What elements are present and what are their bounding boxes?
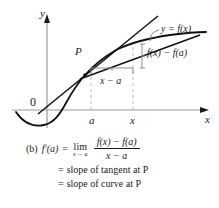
x-axis-label: x	[205, 114, 210, 125]
point-p-marker	[83, 73, 87, 77]
caption-part-label: (b)	[26, 143, 38, 154]
y-axis	[44, 14, 50, 128]
difference-quotient: f(x) − f(a) x − a	[94, 136, 140, 161]
curve-callout-leader	[150, 30, 159, 41]
caption-line-tangent: = slope of tangent at P	[0, 164, 219, 175]
run-label: x − a	[100, 76, 121, 86]
curve-equation-label: y = f(x)	[161, 24, 191, 34]
x-tick-label-x: x	[130, 115, 135, 126]
limit-operator: lim x → a	[73, 141, 88, 157]
caption-tangent-text: slope of tangent at P	[67, 164, 149, 175]
origin-label: 0	[30, 96, 36, 108]
caption: (b) f′(a) = lim x → a f(x) − f(a) x − a …	[0, 136, 219, 189]
x-axis	[12, 107, 209, 113]
caption-curve-text: slope of curve at P	[67, 178, 141, 189]
derivative-symbol: f′(a)	[42, 143, 59, 154]
y-axis-label: y	[40, 8, 45, 19]
equals-sign-3: =	[58, 178, 64, 189]
x-tick-label-a: a	[89, 115, 95, 126]
limit-subscript: x → a	[73, 151, 88, 157]
caption-line-curve: = slope of curve at P	[0, 178, 219, 189]
tangent-line	[38, 16, 158, 114]
fraction-numerator: f(x) − f(a)	[94, 136, 140, 148]
derivative-figure: y x 0 a x P y = f(x) f(x) − f(a) x − a (…	[0, 0, 219, 208]
rise-label: f(x) − f(a)	[147, 48, 187, 58]
equals-sign-1: =	[62, 143, 68, 154]
point-p-label: P	[75, 46, 82, 57]
equals-sign-2: =	[58, 164, 64, 175]
caption-line-definition: (b) f′(a) = lim x → a f(x) − f(a) x − a	[0, 136, 219, 161]
fraction-denominator: x − a	[106, 149, 127, 161]
